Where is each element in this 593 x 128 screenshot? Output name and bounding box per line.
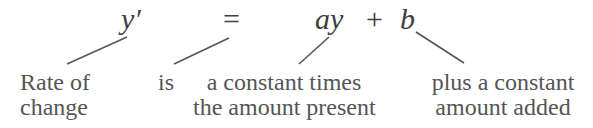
label-line-1: plus a constant — [428, 70, 578, 95]
connector-line-constant-times — [299, 37, 329, 64]
label-constant-times-amount: a constant times the amount present — [193, 70, 375, 120]
label-line-1: a constant times — [193, 70, 375, 95]
label-constant-added: plus a constant amount added — [428, 70, 578, 120]
label-line-1: Rate of — [20, 70, 90, 95]
connector-line-constant-added — [416, 32, 464, 63]
label-rate-of-change: Rate of change — [20, 70, 90, 120]
connector-line-is — [174, 38, 229, 64]
connector-line-rate — [67, 37, 127, 64]
label-is: is — [158, 70, 174, 95]
label-line-2: the amount present — [193, 95, 375, 120]
label-line-2: amount added — [428, 95, 578, 120]
label-line-2: change — [20, 95, 90, 120]
label-line-1: is — [158, 70, 174, 95]
